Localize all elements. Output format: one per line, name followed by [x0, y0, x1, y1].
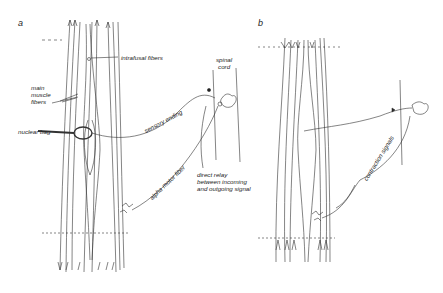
motor-neuron-cell-b — [412, 102, 428, 114]
main-muscle-label-line-1: main — [31, 84, 51, 91]
direct-relay-line-1: direct relay — [197, 171, 251, 178]
direct-relay-label: direct relay between incoming and outgoi… — [197, 171, 251, 192]
intrafusal-fibers-label: intrafusal fibers — [121, 54, 163, 61]
motor-end-plate-a — [120, 203, 133, 213]
contraction-arrow — [336, 185, 355, 208]
spinal-label-line-1: spinal — [216, 56, 232, 63]
main-muscle-fibers-b — [276, 38, 330, 262]
spinal-label-line-2: cord — [216, 63, 232, 70]
intrafusal-fiber-b — [298, 40, 316, 262]
intrafusal-pointer-dot — [88, 58, 91, 61]
muscle-spindle-diagram: a b intrafusal fibers main muscle fibers… — [0, 0, 443, 293]
direct-relay-line-2: between incoming — [197, 178, 251, 185]
motor-end-plate-b — [312, 211, 323, 221]
spinal-cord-label: spinal cord — [216, 56, 232, 70]
intrafusal-pointer-line — [91, 57, 118, 58]
nuclear-bag-shape — [74, 127, 92, 139]
panel-label-a: a — [18, 18, 23, 28]
direct-relay-pointer — [201, 106, 206, 168]
spinal-cord-left-edge-b — [400, 80, 402, 165]
sensory-nerve-b — [304, 108, 412, 131]
contraction-signals-fiber — [322, 116, 410, 218]
intrafusal-fiber-a — [84, 24, 100, 260]
main-muscle-pointer — [52, 94, 78, 103]
sensory-ending-dot — [207, 88, 210, 91]
direct-relay-line-3: and outgoing signal — [197, 185, 251, 192]
main-muscle-label-line-3: fibers — [31, 98, 51, 105]
spinal-cord-right-edge — [236, 68, 240, 162]
main-muscle-fibers-label: main muscle fibers — [31, 84, 51, 105]
nuclear-bag-label: nuclear bag — [18, 128, 50, 135]
motor-neuron-cell — [221, 94, 236, 107]
main-muscle-label-line-2: muscle — [31, 91, 51, 98]
panel-label-b: b — [258, 18, 263, 28]
diagram-drawing — [0, 0, 443, 293]
alpha-motor-fiber — [132, 106, 218, 210]
